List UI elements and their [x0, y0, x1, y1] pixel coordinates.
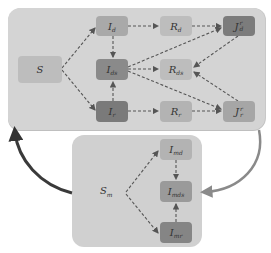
node-r-d: Rd	[160, 16, 192, 36]
link-top-to-bottom-right	[205, 130, 260, 192]
node-i-mr: Imr	[160, 222, 192, 243]
edge-s-ir	[62, 70, 95, 110]
node-s: S	[18, 56, 62, 83]
node-i-ds: Ids	[96, 59, 128, 80]
edge-sm-imr	[126, 194, 158, 233]
link-bottom-to-top-left	[15, 132, 72, 193]
edge-jr-rds	[194, 72, 238, 101]
node-j-r-r: Jrr	[223, 101, 255, 122]
edge-sm-imd	[126, 151, 158, 192]
edge-jd-rds	[194, 36, 238, 67]
node-i-mds: Imds	[160, 181, 192, 202]
node-i-d: Id	[96, 16, 128, 36]
edges-layer	[0, 0, 271, 253]
node-r-r: Rr	[160, 101, 192, 122]
label-s-m: Sm	[100, 185, 113, 196]
node-i-md: Imd	[160, 139, 192, 160]
node-i-r: Ir	[96, 101, 128, 122]
node-j-d-r: Jrd	[223, 16, 255, 36]
node-r-ds: Rds	[160, 59, 192, 80]
edge-s-id	[62, 28, 95, 68]
